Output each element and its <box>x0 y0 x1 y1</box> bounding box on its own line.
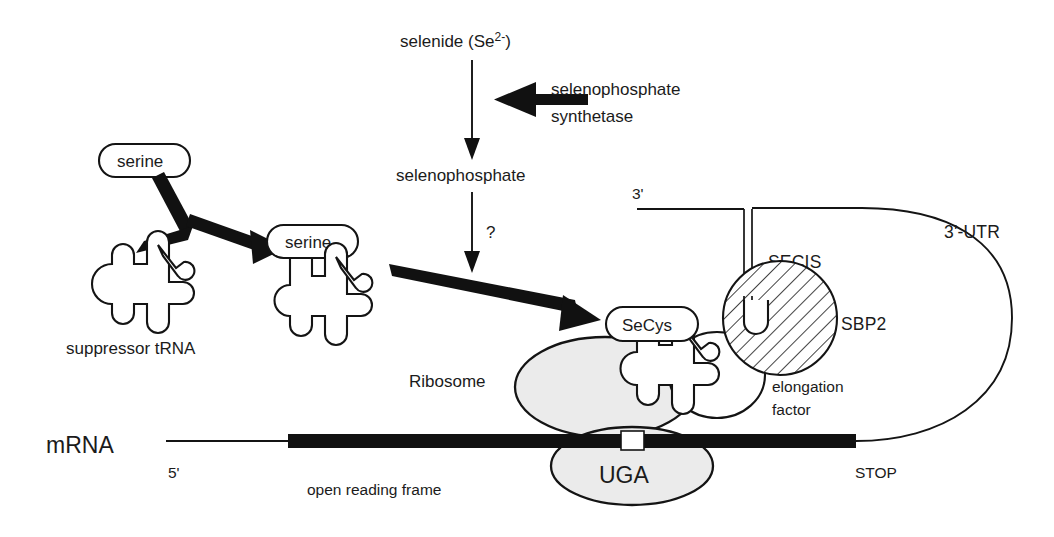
secys-label: SeCys <box>622 316 672 335</box>
open-reading-frame-label: open reading frame <box>307 481 441 498</box>
diagram-canvas: selenide (Se2-) selenophosphate syntheta… <box>0 0 1054 537</box>
selenide-label: selenide (Se2-) <box>400 30 511 51</box>
serine-label-1: serine <box>117 152 163 171</box>
mrna-label: mRNA <box>46 432 114 458</box>
selenophosphate-synthetase-label-line2: synthetase <box>551 107 633 126</box>
ribosome-label: Ribosome <box>409 372 486 391</box>
secis-loop <box>744 300 768 334</box>
five-prime-label: 5' <box>168 464 180 481</box>
mrna-orf-bar-overlay <box>560 434 856 448</box>
question-mark-label: ? <box>486 223 495 242</box>
three-prime-utr-label: 3'-UTR <box>944 222 1000 242</box>
uga-label: UGA <box>599 462 650 488</box>
three-prime-label: 3' <box>632 185 644 202</box>
sbp2-circle <box>723 261 837 375</box>
elongation-factor-label-line1: elongation <box>772 378 844 395</box>
sbp2-label: SBP2 <box>841 314 887 334</box>
selenocysteine-pathway-diagram: selenide (Se2-) selenophosphate syntheta… <box>0 0 1054 537</box>
selenophosphate-label: selenophosphate <box>396 166 526 185</box>
serine-label-2: serine <box>285 233 331 252</box>
selenophosphate-synthetase-label-line1: selenophosphate <box>551 80 681 99</box>
suppressor-trna-label: suppressor tRNA <box>66 339 196 358</box>
elongation-factor-label-line2: factor <box>772 401 811 418</box>
uga-codon-box <box>621 431 644 450</box>
stop-codon-label: STOP <box>855 464 897 481</box>
